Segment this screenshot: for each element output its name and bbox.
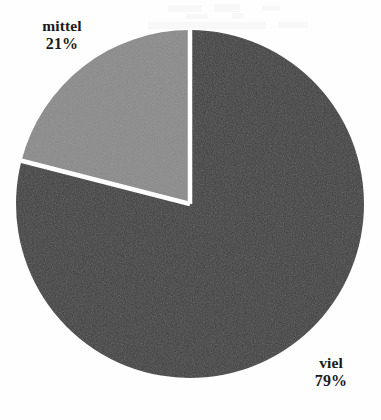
pie-chart-figure: mittel 21% viel 79% [0, 0, 381, 420]
pie-label-viel: viel 79% [284, 354, 378, 391]
pie-label-mittel: mittel 21% [14, 17, 110, 54]
pie-label-viel-name: viel [284, 354, 378, 372]
pie-label-mittel-name: mittel [14, 17, 110, 35]
pie-label-viel-value: 79% [284, 372, 378, 391]
pie-label-mittel-value: 21% [14, 35, 110, 54]
